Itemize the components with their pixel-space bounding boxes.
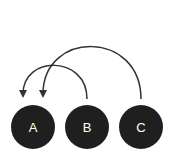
- node-c: C: [119, 105, 163, 149]
- node-b-label: B: [83, 120, 92, 135]
- node-a-label: A: [29, 120, 38, 135]
- node-c-label: C: [136, 120, 145, 135]
- arc-diagram: A B C: [0, 0, 177, 159]
- node-b: B: [65, 105, 109, 149]
- edge-b-to-a: [23, 65, 87, 99]
- node-a: A: [11, 105, 55, 149]
- edge-c-to-a: [43, 47, 141, 99]
